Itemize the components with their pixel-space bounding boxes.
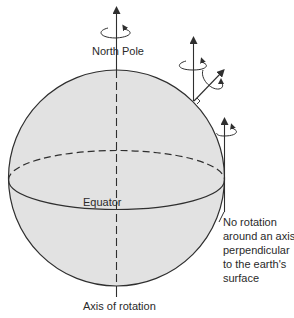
- north-pole-label: North Pole: [92, 45, 144, 57]
- annotation-line-2: around an axis: [223, 230, 294, 242]
- right-angle-mark: [197, 98, 200, 104]
- mid-latitude-normal-arrow: [194, 72, 222, 101]
- earth-rotation-diagram: North Pole Equator Axis of rotation No r…: [0, 0, 294, 318]
- axis-of-rotation-label: Axis of rotation: [83, 300, 156, 312]
- equator-label: Equator: [83, 196, 122, 208]
- annotation-line-1: No rotation: [223, 216, 277, 228]
- perpendicular-axis-annotation: No rotation around an axis perpendicular…: [223, 216, 294, 284]
- mid-latitude-normal-rotation-icon: [202, 70, 222, 89]
- north-pole-rotation-icon: [101, 27, 130, 38]
- annotation-line-5: surface: [223, 272, 259, 284]
- annotation-line-4: to the earth's: [223, 258, 287, 270]
- annotation-line-3: perpendicular: [223, 244, 290, 256]
- mid-latitude-vertical-rotation-icon: [179, 60, 206, 70]
- equator-rotation-icon: [217, 126, 237, 136]
